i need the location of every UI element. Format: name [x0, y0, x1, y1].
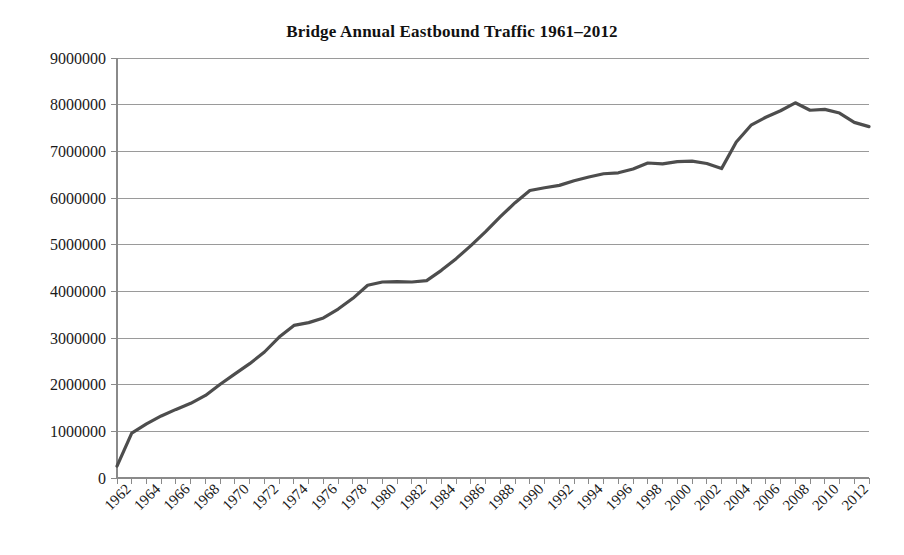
y-tick-label: 0: [98, 470, 106, 487]
traffic-series-line: [117, 103, 869, 466]
x-tick-label: 1980: [367, 481, 400, 514]
y-tick-label: 8000000: [50, 96, 106, 113]
y-tick-label: 6000000: [50, 190, 106, 207]
x-tick-label: 2012: [839, 481, 872, 514]
x-axis-tickmarks: [117, 478, 869, 484]
y-tick-label: 5000000: [50, 236, 106, 253]
y-axis-tickmarks: [111, 58, 117, 478]
y-axis-tick-labels: 0100000020000003000000400000050000006000…: [50, 50, 106, 487]
x-tick-label: 2010: [809, 481, 842, 514]
chart-plot-area: 0100000020000003000000400000050000006000…: [0, 0, 904, 555]
y-tick-label: 2000000: [50, 376, 106, 393]
x-tick-label: 2006: [750, 480, 783, 513]
x-tick-label: 1988: [485, 481, 518, 514]
x-tick-label: 1964: [131, 480, 164, 513]
x-tick-label: 1966: [160, 480, 193, 513]
x-tick-label: 1992: [544, 481, 577, 514]
chart-page: Bridge Annual Eastbound Traffic 1961–201…: [0, 0, 904, 555]
x-tick-label: 1982: [396, 481, 429, 514]
x-tick-label: 1978: [337, 481, 370, 514]
x-tick-label: 1996: [603, 480, 636, 513]
y-tick-label: 7000000: [50, 143, 106, 160]
x-tick-label: 1972: [249, 481, 282, 514]
x-tick-label: 2002: [691, 481, 724, 514]
x-tick-label: 1974: [278, 480, 311, 513]
x-tick-label: 1990: [514, 481, 547, 514]
x-tick-label: 1984: [426, 480, 459, 513]
x-axis-tick-labels: 1962196419661968197019721974197619781980…: [101, 480, 871, 513]
x-tick-label: 2008: [780, 481, 813, 514]
x-tick-label: 1976: [308, 480, 341, 513]
x-tick-label: 1968: [190, 481, 223, 514]
y-tick-label: 3000000: [50, 330, 106, 347]
x-tick-label: 1986: [455, 480, 488, 513]
gridlines: [117, 58, 869, 431]
line-chart-svg: 0100000020000003000000400000050000006000…: [0, 0, 904, 555]
x-tick-label: 1994: [573, 480, 606, 513]
x-tick-label: 2004: [721, 480, 754, 513]
y-tick-label: 4000000: [50, 283, 106, 300]
x-tick-label: 1962: [101, 481, 134, 514]
y-tick-label: 1000000: [50, 423, 106, 440]
x-tick-label: 2000: [662, 481, 695, 514]
y-tick-label: 9000000: [50, 50, 106, 67]
x-tick-label: 1998: [632, 481, 665, 514]
x-tick-label: 1970: [219, 481, 252, 514]
